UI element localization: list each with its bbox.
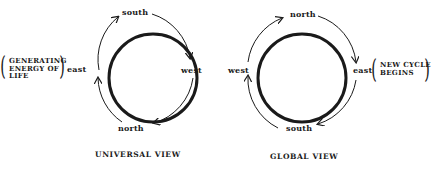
universal-note: Generating energy of life <box>9 57 67 80</box>
universal-note-close-paren: ) <box>59 53 65 79</box>
universal-note-line: life <box>9 72 67 80</box>
universal-inner-circle <box>109 34 197 122</box>
global-label-left: west <box>228 66 249 74</box>
global-arc-south-to-west <box>248 76 278 128</box>
global-label-right: east <box>353 66 372 74</box>
universal-arc-east-to-south <box>98 17 118 70</box>
universal-note-open-paren: ( <box>0 53 6 79</box>
global-inner-circle <box>258 34 346 122</box>
universal-label-top: south <box>122 8 148 16</box>
universal-label-left: east <box>67 65 86 73</box>
global-label-top: north <box>290 10 316 18</box>
global-view-diagram <box>248 16 356 128</box>
global-note-close-paren: ) <box>424 56 430 82</box>
global-view-caption: Global View <box>270 152 338 161</box>
universal-label-right: west <box>181 66 202 74</box>
universal-view-caption: Universal View <box>95 150 181 159</box>
universal-arc-south-to-west <box>152 14 190 58</box>
universal-label-bottom: north <box>118 124 144 132</box>
diagram-artwork <box>0 0 432 170</box>
global-note-open-paren: ( <box>371 56 377 82</box>
global-label-bottom: south <box>286 124 312 132</box>
